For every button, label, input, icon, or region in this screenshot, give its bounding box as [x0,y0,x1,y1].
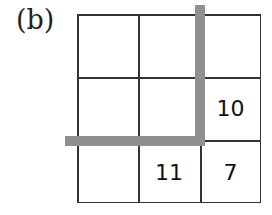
grid-cell-r2c3: 10 [200,77,261,140]
grid-cell-r3c3: 7 [200,140,261,203]
grid-line [77,14,79,203]
horizontal-highlight-bar [65,136,205,146]
grid-line [77,14,261,16]
number-grid: 10 11 7 [77,14,261,203]
vertical-highlight-bar [195,5,205,146]
figure-label: (b) [16,6,54,33]
grid-cell-r3c2: 11 [138,140,200,203]
